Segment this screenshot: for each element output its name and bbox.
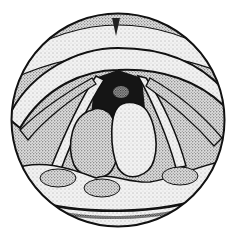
- trachea-ring: [113, 86, 129, 98]
- illustration-svg: [0, 0, 237, 234]
- laryngeal-illustration: [0, 0, 237, 234]
- left-arytenoid: [40, 169, 76, 187]
- right-arytenoid: [162, 167, 198, 185]
- interarytenoid: [84, 179, 120, 197]
- right-mass: [112, 103, 156, 177]
- scope-view: [0, 0, 237, 234]
- left-mass: [71, 109, 118, 178]
